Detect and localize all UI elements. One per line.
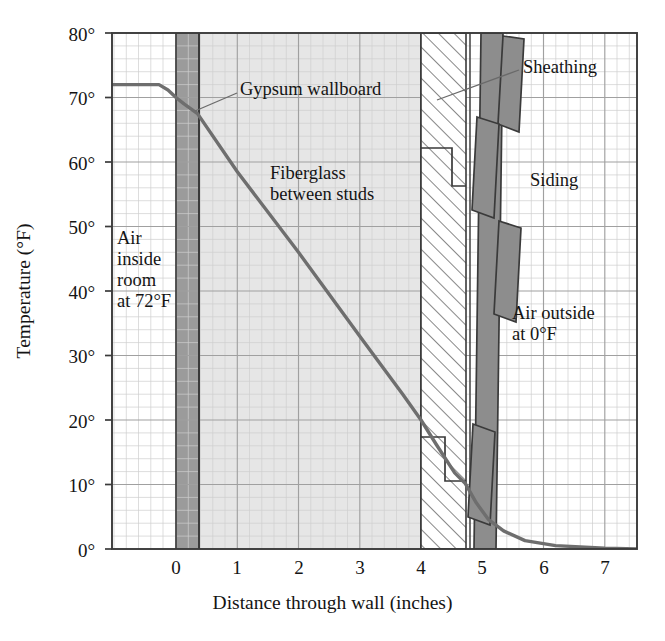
x-tick-4: 4 xyxy=(406,557,436,579)
y-axis-ticks xyxy=(105,33,112,549)
wall-temperature-figure: 80° 70° 60° 50° 40° 30° 20° 10° 0° 0 1 2… xyxy=(0,0,665,641)
annotation-gypsum-wallboard: Gypsum wallboard xyxy=(240,79,381,100)
air-inside-line-4: at 72°F xyxy=(117,291,171,312)
sheathing-hatch xyxy=(421,33,466,549)
fiberglass-line-2: between studs xyxy=(270,184,374,205)
annotation-fiberglass: Fiberglass between studs xyxy=(270,163,374,205)
x-tick-6: 6 xyxy=(529,557,559,579)
x-tick-1: 1 xyxy=(222,557,252,579)
y-tick-30: 30° xyxy=(33,346,95,368)
air-inside-line-3: room xyxy=(117,270,171,291)
y-axis-title: Temperature (°F) xyxy=(13,191,35,391)
y-tick-70: 70° xyxy=(33,88,95,110)
annotation-siding: Siding xyxy=(530,170,578,191)
x-tick-5: 5 xyxy=(467,557,497,579)
y-tick-0: 0° xyxy=(33,540,95,562)
air-inside-line-1: Air xyxy=(117,228,171,249)
x-tick-3: 3 xyxy=(345,557,375,579)
y-tick-10: 10° xyxy=(33,475,95,497)
annotation-air-inside: Air inside room at 72°F xyxy=(117,228,171,312)
annotation-air-outside: Air outside at 0°F xyxy=(512,303,595,345)
y-tick-50: 50° xyxy=(33,217,95,239)
air-outside-line-2: at 0°F xyxy=(512,324,595,345)
x-axis-title: Distance through wall (inches) xyxy=(0,592,665,614)
annotation-sheathing: Sheathing xyxy=(523,57,597,78)
y-tick-60: 60° xyxy=(33,153,95,175)
x-tick-7: 7 xyxy=(590,557,620,579)
fiberglass-line-1: Fiberglass xyxy=(270,163,374,184)
y-tick-20: 20° xyxy=(33,411,95,433)
air-outside-line-1: Air outside xyxy=(512,303,595,324)
siding-lap-board-2 xyxy=(472,117,499,218)
y-tick-80: 80° xyxy=(33,24,95,46)
x-tick-0: 0 xyxy=(161,557,191,579)
y-tick-40: 40° xyxy=(33,282,95,304)
x-tick-2: 2 xyxy=(284,557,314,579)
air-inside-line-2: inside xyxy=(117,249,171,270)
siding-lap-board-1 xyxy=(498,36,524,132)
